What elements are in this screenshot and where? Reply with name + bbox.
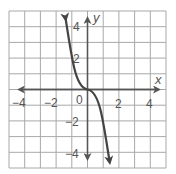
x-tick-neg2: −2 (44, 96, 58, 110)
y-tick-2: 2 (73, 52, 80, 66)
y-tick-neg4: −4 (65, 147, 79, 161)
origin-label: 0 (76, 93, 83, 107)
coordinate-plane: y x −4 −2 0 2 4 4 2 −2 −4 (0, 0, 176, 174)
x-tick-2: 2 (115, 97, 122, 111)
x-tick-4: 4 (146, 97, 153, 111)
y-tick-neg2: −2 (65, 115, 79, 129)
y-tick-4: 4 (73, 20, 80, 34)
x-tick-neg4: −4 (12, 96, 26, 110)
y-axis-label: y (92, 10, 101, 25)
x-axis-label: x (154, 72, 162, 87)
